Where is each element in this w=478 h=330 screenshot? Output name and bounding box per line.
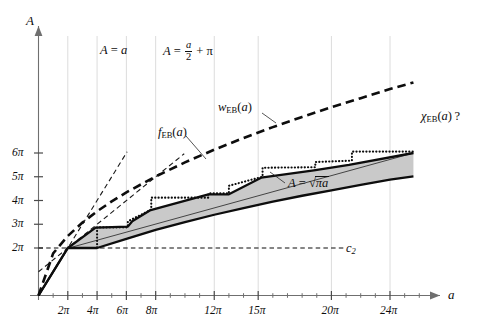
x-tick-label: 12π: [204, 305, 221, 317]
thin-chord-line: [66, 153, 413, 249]
y-tick-label: 2π: [12, 242, 24, 254]
x-tick-label: 6π: [116, 305, 128, 317]
figure-root: A a 2π4π6π8π12π15π20π24π 2π3π4π5π6π A = …: [0, 0, 478, 330]
annotation-A-equals-a: A = a: [100, 44, 127, 57]
leader-w-EB: [262, 113, 276, 123]
y-tick-label: 3π: [12, 218, 24, 230]
annotation-c2: c2: [346, 242, 356, 256]
y-tick-label: 6π: [12, 147, 24, 159]
x-tick-label: 2π: [58, 305, 70, 317]
y-tick-label: 4π: [12, 195, 24, 207]
x-tick-label: 4π: [87, 305, 99, 317]
x-axis-title: a: [448, 288, 455, 301]
annotation-A-equals-sqrt-pi-a: A = √πa: [288, 176, 329, 190]
label-leader-lines: [186, 113, 285, 183]
y-axis-title: A: [26, 14, 34, 27]
chart-canvas: [0, 0, 478, 330]
x-tick-label: 15π: [248, 305, 265, 317]
shaded-band: [39, 153, 414, 296]
x-axis-arrow: [430, 292, 440, 300]
leader-f-EB: [186, 136, 206, 159]
x-tick-label: 24π: [380, 305, 397, 317]
x-tick-label: 20π: [321, 305, 338, 317]
annotation-w-EB: wEB(a): [218, 101, 252, 115]
annotation-A-equals-a-over-2-plus-pi: A = a2 + π: [163, 40, 213, 62]
annotation-f-EB: fEB(a): [158, 126, 187, 140]
y-tick-label: 5π: [12, 171, 24, 183]
annotation-chi-EB: χEB(a) ?: [421, 110, 460, 124]
y-axis-arrow: [35, 26, 43, 36]
x-tick-label: 8π: [146, 305, 158, 317]
